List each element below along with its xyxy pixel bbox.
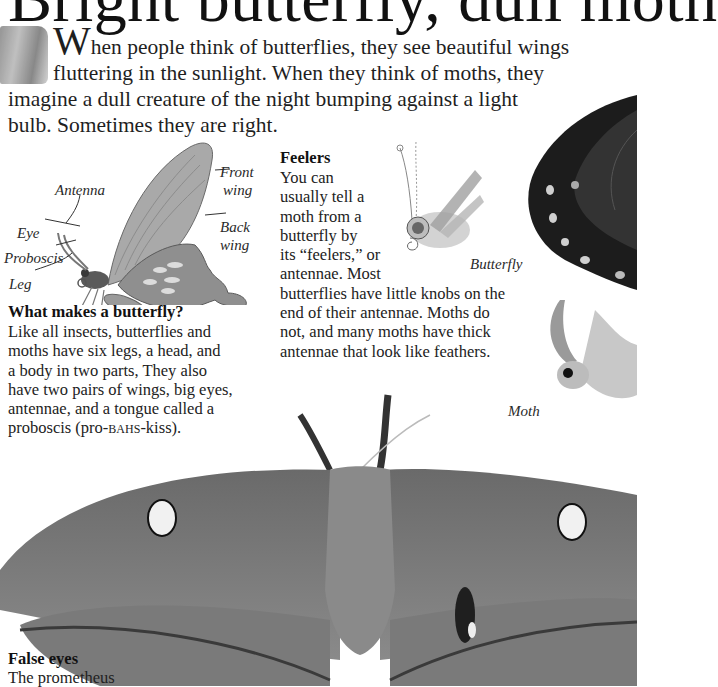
label-back-wing-1: Back bbox=[220, 219, 250, 236]
prometheus-moth-photo bbox=[0, 390, 637, 686]
label-proboscis: Proboscis bbox=[4, 250, 63, 267]
false-eyes-heading: False eyes bbox=[8, 650, 115, 668]
false-eyes-line: The prometheus bbox=[8, 668, 115, 687]
feelers-line: end of their antennae. Moths do bbox=[280, 303, 505, 322]
label-leg: Leg bbox=[9, 276, 32, 293]
feelers-line: antennae that look like feathers. bbox=[280, 342, 505, 361]
what-makes-line: Like all insects, butterflies and bbox=[8, 322, 298, 341]
label-front-wing-1: Front bbox=[220, 164, 254, 181]
butterfly-head-sketch bbox=[370, 140, 490, 270]
label-back-wing-2: wing bbox=[220, 237, 249, 254]
drop-cap: W bbox=[53, 18, 91, 63]
what-makes-line: moths have six legs, a head, and bbox=[8, 341, 298, 360]
feelers-line: not, and many moths have thick bbox=[280, 322, 505, 341]
label-eye: Eye bbox=[17, 225, 39, 242]
dark-butterfly-wing-photo bbox=[495, 90, 637, 300]
intro-line-1: When people think of butterflies, they s… bbox=[8, 28, 628, 60]
false-eyes-section: False eyes The prometheus bbox=[8, 650, 115, 687]
intro-line-1-text: hen people think of butterflies, they se… bbox=[91, 35, 569, 59]
what-makes-heading: What makes a butterfly? bbox=[8, 302, 298, 322]
label-antenna: Antenna bbox=[55, 182, 105, 199]
label-front-wing-2: wing bbox=[223, 182, 252, 199]
what-makes-line: a body in two parts, They also bbox=[8, 361, 298, 380]
feelers-line: butterflies have little knobs on the bbox=[280, 284, 505, 303]
intro-line-2: fluttering in the sunlight. When they th… bbox=[8, 60, 628, 86]
